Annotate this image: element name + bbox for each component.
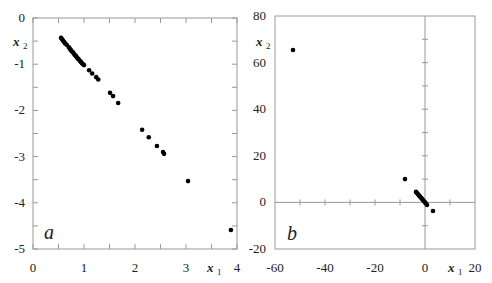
x-tick-label: 0 bbox=[30, 260, 37, 275]
y-tick-label: -4 bbox=[14, 195, 25, 210]
y-tick-label: -5 bbox=[14, 241, 25, 256]
plot-frame bbox=[33, 18, 237, 249]
x-tick-label: -60 bbox=[266, 260, 283, 275]
panel-a-scatter: 012340-1-2-3-4-5x1x2a bbox=[12, 10, 241, 277]
x-tick-label: 1 bbox=[81, 260, 88, 275]
x-tick-label: 4 bbox=[234, 260, 241, 275]
data-point bbox=[425, 203, 430, 208]
data-point bbox=[111, 94, 116, 99]
x-axis-label: x bbox=[447, 260, 455, 275]
y-tick-label: -20 bbox=[249, 241, 266, 256]
y-tick-label: 20 bbox=[253, 148, 266, 163]
panel-label-a: a bbox=[44, 221, 54, 243]
y-tick-label: 60 bbox=[253, 55, 266, 70]
y-tick-label: -2 bbox=[14, 102, 25, 117]
data-point bbox=[82, 63, 87, 68]
x-axis-label-sub: 1 bbox=[217, 267, 222, 277]
data-point bbox=[116, 101, 121, 106]
data-point bbox=[186, 179, 191, 184]
y-tick-label: -1 bbox=[14, 56, 25, 71]
x-tick-label: 20 bbox=[469, 260, 482, 275]
y-axis-label: x bbox=[255, 34, 263, 49]
data-point bbox=[155, 144, 160, 149]
data-point bbox=[403, 177, 408, 182]
y-axis-label-sub: 2 bbox=[23, 41, 28, 51]
data-point bbox=[162, 152, 167, 157]
x-tick-label: 3 bbox=[183, 260, 190, 275]
data-point bbox=[90, 71, 95, 76]
y-axis-label: x bbox=[12, 34, 20, 49]
data-point bbox=[229, 228, 234, 233]
y-tick-label: 80 bbox=[253, 8, 266, 23]
x-axis-label-sub: 1 bbox=[458, 267, 463, 277]
data-point bbox=[146, 135, 151, 140]
x-tick-label: -20 bbox=[366, 260, 383, 275]
x-tick-label: -40 bbox=[316, 260, 333, 275]
data-point bbox=[431, 209, 436, 214]
y-tick-label: -3 bbox=[14, 149, 25, 164]
y-tick-label: 0 bbox=[260, 194, 267, 209]
data-point bbox=[291, 48, 296, 53]
data-point bbox=[140, 128, 145, 133]
figure: 012340-1-2-3-4-5x1x2a -60-40-20020806040… bbox=[0, 0, 492, 283]
x-axis-label: x bbox=[206, 260, 214, 275]
panel-label-b: b bbox=[287, 222, 297, 244]
plot-frame bbox=[275, 16, 475, 249]
x-tick-label: 0 bbox=[422, 260, 429, 275]
x-tick-label: 2 bbox=[132, 260, 139, 275]
y-axis-label-sub: 2 bbox=[266, 41, 271, 51]
y-tick-label: 40 bbox=[253, 101, 266, 116]
data-point bbox=[96, 77, 101, 82]
panel-b-scatter: -60-40-20020806040200-20x1x2b bbox=[249, 8, 482, 277]
y-tick-label: 0 bbox=[19, 10, 26, 25]
